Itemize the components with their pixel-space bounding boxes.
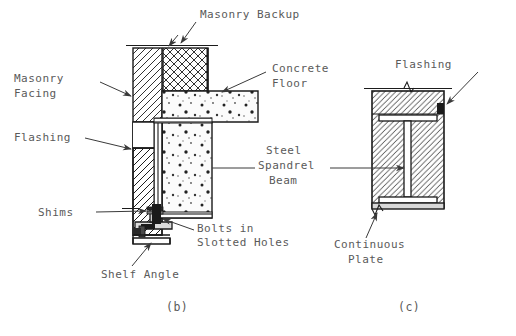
- leader-flashing-b: [85, 138, 131, 149]
- detail-b-group: [122, 46, 258, 245]
- leader-concrete-floor: [222, 72, 266, 92]
- label-flashing-b: Flashing: [14, 131, 71, 144]
- caption-b: (b): [166, 300, 188, 314]
- detail-c-group: [364, 82, 452, 215]
- label-masonry-facing-l2: Facing: [14, 87, 57, 100]
- mortar-bed-shelf: [158, 212, 212, 218]
- label-steel-spandrel-l2: Spandrel: [258, 159, 315, 172]
- leader-masonry-backup: [181, 22, 196, 43]
- label-steel-spandrel-l1: Steel: [266, 144, 302, 157]
- continuous-plate: [372, 203, 444, 209]
- label-shelf-angle: Shelf Angle: [101, 268, 179, 281]
- label-concrete-floor-l2: Floor: [272, 77, 308, 90]
- flashing-vertical-strip: [154, 122, 162, 218]
- label-concrete-floor-l1: Concrete: [272, 62, 329, 75]
- label-masonry-facing-l1: Masonry: [14, 72, 64, 85]
- flashing-return-c: [437, 103, 444, 114]
- label-masonry-backup: Masonry Backup: [200, 8, 300, 21]
- label-shims: Shims: [38, 206, 74, 219]
- label-continuous-plate-l2: Plate: [348, 253, 384, 266]
- label-flashing-c: Flashing: [395, 58, 452, 71]
- leader-continuous-plate: [366, 213, 377, 238]
- masonry-backup-region: [163, 48, 208, 91]
- caption-c: (c): [398, 300, 420, 314]
- leader-masonry-backup-2: [169, 35, 178, 46]
- concrete-floor-region: [162, 91, 258, 218]
- label-bolts-l1: Bolts in: [197, 222, 254, 235]
- leader-shelf-angle: [132, 243, 151, 266]
- mortar-bed-upper: [154, 118, 212, 123]
- label-continuous-plate-l1: Continuous: [334, 238, 405, 251]
- leader-masonry-facing: [100, 82, 131, 96]
- figure-canvas: Masonry Backup Masonry Facing Flashing C…: [0, 0, 516, 336]
- label-steel-spandrel-l3: Beam: [269, 174, 298, 187]
- label-bolts-l2: Slotted Holes: [197, 236, 290, 249]
